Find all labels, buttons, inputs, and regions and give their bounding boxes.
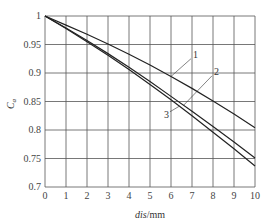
line-chart: 123 012345678910 0.70.750.80.850.90.951 … xyxy=(0,0,267,223)
x-tick-label: 2 xyxy=(85,190,90,201)
x-tick-label: 7 xyxy=(190,190,195,201)
x-tick-label: 10 xyxy=(250,190,260,201)
x-tick-label: 6 xyxy=(169,190,174,201)
y-tick-label: 1 xyxy=(36,10,41,21)
series-label-1: 1 xyxy=(193,49,198,60)
y-axis-label: Ca xyxy=(5,98,18,109)
y-tick-label: 0.75 xyxy=(24,153,42,164)
y-tick-label: 0.8 xyxy=(29,124,42,135)
grid-lines xyxy=(45,16,255,187)
series-labels: 123 xyxy=(164,49,219,120)
x-axis-ticks: 012345678910 xyxy=(43,190,261,201)
series-label-3: 3 xyxy=(164,109,169,120)
y-tick-label: 0.7 xyxy=(29,181,42,192)
x-tick-label: 1 xyxy=(64,190,69,201)
y-axis-ticks: 0.70.750.80.850.90.951 xyxy=(24,10,42,192)
x-tick-label: 5 xyxy=(148,190,153,201)
y-tick-label: 0.9 xyxy=(29,67,42,78)
x-tick-label: 4 xyxy=(127,190,132,201)
x-tick-label: 9 xyxy=(232,190,237,201)
x-tick-label: 8 xyxy=(211,190,216,201)
x-tick-label: 3 xyxy=(106,190,111,201)
y-tick-label: 0.85 xyxy=(24,96,42,107)
y-tick-label: 0.95 xyxy=(24,39,42,50)
series-label-2: 2 xyxy=(214,66,219,77)
x-axis-label: dis/mm xyxy=(135,209,165,220)
x-tick-label: 0 xyxy=(43,190,48,201)
